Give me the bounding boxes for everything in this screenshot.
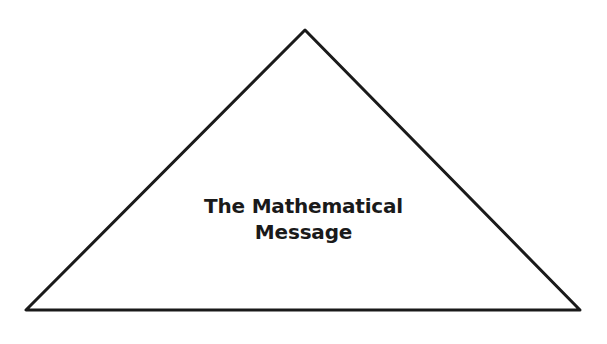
label-line-1: The Mathematical — [150, 193, 457, 219]
triangle-label: The Mathematical Message — [150, 193, 457, 245]
triangle-shape — [26, 30, 580, 310]
triangle-diagram — [0, 0, 607, 344]
label-line-2: Message — [150, 219, 457, 245]
